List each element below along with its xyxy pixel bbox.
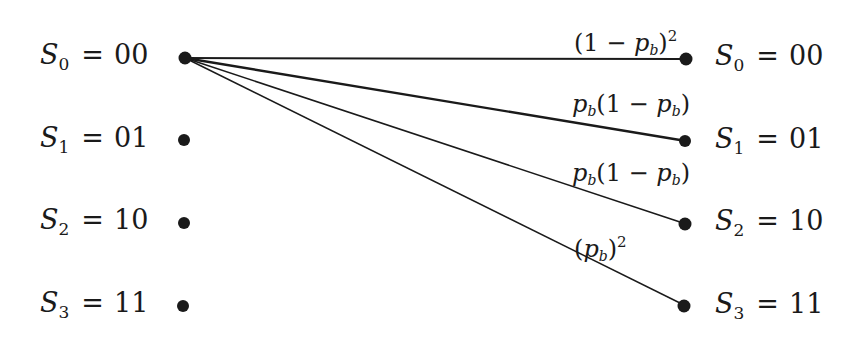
left-state-label-s2: S2=10 xyxy=(40,205,148,244)
right-state-label-s1: S1=01 xyxy=(715,124,823,163)
edge-label-s0-s1: pb(1 − pb) xyxy=(572,90,690,125)
left-node-s3 xyxy=(177,300,189,312)
right-state-label-s2: S2=10 xyxy=(715,206,823,245)
edge-label-s0-s2: pb(1 − pb) xyxy=(572,159,690,194)
right-node-s2 xyxy=(679,218,692,231)
left-state-label-s3: S3=11 xyxy=(40,288,148,327)
right-state-label-s3: S3=11 xyxy=(715,289,823,328)
left-state-label-s1: S1=01 xyxy=(40,123,148,162)
edge-s0-s2 xyxy=(185,58,686,224)
right-node-s0 xyxy=(680,53,693,66)
trellis-diagram: S0=00 S1=01 S2=10 S3=11 S0=00 S1=01 S2=1… xyxy=(0,0,864,339)
right-state-label-s0: S0=00 xyxy=(715,41,823,80)
left-node-s2 xyxy=(178,217,190,229)
right-node-s1 xyxy=(679,135,691,147)
left-node-s0 xyxy=(179,52,192,65)
right-node-s3 xyxy=(678,300,691,313)
left-state-label-s0: S0=00 xyxy=(40,40,148,79)
edge-label-s0-s0: (1 − pb)2 xyxy=(574,22,677,64)
edge-label-s0-s3: (pb)2 xyxy=(574,228,627,270)
left-node-s1 xyxy=(178,134,190,146)
